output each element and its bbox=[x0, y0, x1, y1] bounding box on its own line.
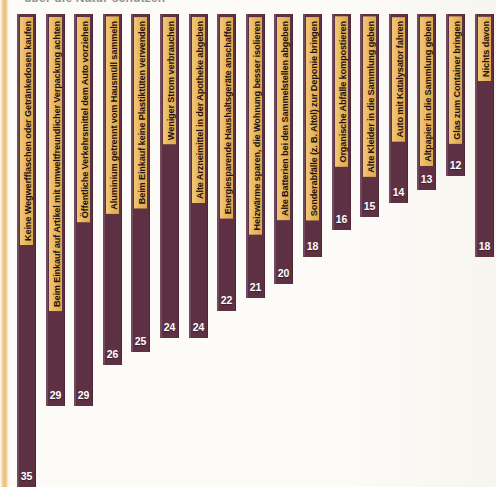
bar-group: Nichts davon18 bbox=[475, 14, 494, 257]
bar-value-label: 29 bbox=[46, 389, 65, 401]
bar-category-label: Nichts davon bbox=[478, 17, 491, 81]
bar-category-label: Alte Arzneimittel in der Apotheke abgebe… bbox=[192, 17, 205, 203]
bar-value-label: 35 bbox=[17, 470, 36, 482]
bar-category-label: Organische Abfälle kompostieren bbox=[335, 17, 348, 167]
bar-category-label: Alte Batterien bei den Sammelstellen abg… bbox=[277, 17, 290, 220]
bar-value-label: 26 bbox=[103, 348, 122, 360]
bar-group: Beim Einkauf keine Plastiktüten verwende… bbox=[131, 14, 150, 352]
bar-group: Alte Kleider in die Sammlung geben15 bbox=[360, 14, 379, 217]
bar-category-label: Beim Einkauf keine Plastiktüten verwende… bbox=[134, 17, 147, 208]
bar-group: Auto mit Katalysator fahren14 bbox=[389, 14, 408, 203]
bar-value-label: 15 bbox=[360, 200, 379, 212]
bar-value-label: 14 bbox=[389, 186, 408, 198]
bar-group: Organische Abfälle kompostieren16 bbox=[332, 14, 351, 230]
bar-category-label: Sonderabfälle (z. B. Altöl) zur Deponie … bbox=[306, 17, 319, 220]
bar-group: Beim Einkauf auf Artikel mit umweltfreun… bbox=[46, 14, 65, 406]
bar-value-label: 18 bbox=[303, 240, 322, 252]
bar-group: Alte Batterien bei den Sammelstellen abg… bbox=[274, 14, 293, 284]
bar-category-label: Heizwärme sparen, die Wohnung besser iso… bbox=[249, 17, 262, 234]
bar-category-label: Auto mit Katalysator fahren bbox=[392, 17, 405, 141]
bar-value-label: 24 bbox=[160, 321, 179, 333]
bar-category-label: Glas zum Container bringen bbox=[449, 17, 462, 144]
bar-group: Altpapier in die Sammlung geben13 bbox=[417, 14, 436, 190]
bar-value-label: 18 bbox=[475, 240, 494, 252]
bar-group: Glas zum Container bringen12 bbox=[446, 14, 465, 176]
bar-category-label: Beim Einkauf auf Artikel mit umweltfreun… bbox=[49, 17, 62, 311]
bar-category-label: Weniger Strom verbrauchen bbox=[163, 17, 176, 144]
bar-value-label: 29 bbox=[74, 389, 93, 401]
bar-category-label: Altpapier in die Sammlung geben bbox=[420, 17, 433, 166]
bar-value-label: 21 bbox=[246, 281, 265, 293]
bar-group: Öffentliche Verkehrsmittel dem Auto vorz… bbox=[74, 14, 93, 406]
bar-category-label: Alte Kleider in die Sammlung geben bbox=[363, 17, 376, 177]
bar-group: Keine Wegwerfflaschen oder Getränkedosen… bbox=[17, 14, 36, 487]
bar-category-label: Öffentliche Verkehrsmittel dem Auto vorz… bbox=[77, 17, 90, 222]
bar-group: Alte Arzneimittel in der Apotheke abgebe… bbox=[189, 14, 208, 338]
bar-group: Weniger Strom verbrauchen24 bbox=[160, 14, 179, 338]
chart-canvas: über die Natur schützen Keine Wegwerffla… bbox=[0, 0, 496, 487]
bar-value-label: 24 bbox=[189, 321, 208, 333]
bar-category-label: Energiesparende Haushaltsgeräte anschaff… bbox=[220, 17, 233, 218]
bar-value-label: 25 bbox=[131, 335, 150, 347]
bar-category-label: Keine Wegwerfflaschen oder Getränkedosen… bbox=[20, 17, 33, 245]
bar-chart-plot: Keine Wegwerfflaschen oder Getränkedosen… bbox=[0, 0, 496, 487]
bar-value-label: 13 bbox=[417, 173, 436, 185]
bar-value-label: 16 bbox=[332, 213, 351, 225]
bar-group: Sonderabfälle (z. B. Altöl) zur Deponie … bbox=[303, 14, 322, 257]
bar-group: Heizwärme sparen, die Wohnung besser iso… bbox=[246, 14, 265, 298]
bar-group: Energiesparende Haushaltsgeräte anschaff… bbox=[217, 14, 236, 311]
bar-value-label: 12 bbox=[446, 159, 465, 171]
bar-category-label: Aluminium getrennt vom Hausmüll sammeln bbox=[106, 17, 119, 214]
bar-value-label: 22 bbox=[217, 294, 236, 306]
bar-group: Aluminium getrennt vom Hausmüll sammeln2… bbox=[103, 14, 122, 365]
bar-value-label: 20 bbox=[274, 267, 293, 279]
